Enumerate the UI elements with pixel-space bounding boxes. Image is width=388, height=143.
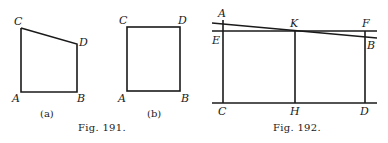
figure-canvas: C D A B (a) C D A B (b) Fig. 191. A K F … <box>0 0 388 143</box>
point-label-h: H <box>289 105 300 118</box>
fig-191b: C D A B (b) <box>117 14 189 119</box>
point-label-c: C <box>218 105 227 118</box>
point-label-d: D <box>359 105 369 118</box>
point-label-c: C <box>119 14 128 27</box>
point-label-c: C <box>14 15 23 28</box>
point-label-k: K <box>289 17 299 30</box>
point-label-b: B <box>180 92 189 105</box>
point-label-d: D <box>177 14 187 27</box>
fig-192: A K F E B C H D <box>211 7 377 118</box>
quadrilateral-abcd-a <box>21 28 77 92</box>
panel-sublabel-b: (b) <box>147 108 161 119</box>
point-label-b: B <box>76 92 85 105</box>
point-label-a: A <box>217 7 226 20</box>
fig-191a: C D A B (a) <box>11 15 88 119</box>
point-label-d: D <box>78 36 88 49</box>
rectangle-abcd-b <box>127 27 180 91</box>
point-label-a: A <box>117 92 126 105</box>
point-label-f: F <box>361 17 370 30</box>
point-label-e: E <box>211 34 220 47</box>
point-label-b: B <box>366 39 375 52</box>
figure-caption-191: Fig. 191. <box>78 122 126 133</box>
panel-sublabel-a: (a) <box>40 108 54 119</box>
point-label-a: A <box>11 92 20 105</box>
figure-caption-192: Fig. 192. <box>273 122 321 133</box>
